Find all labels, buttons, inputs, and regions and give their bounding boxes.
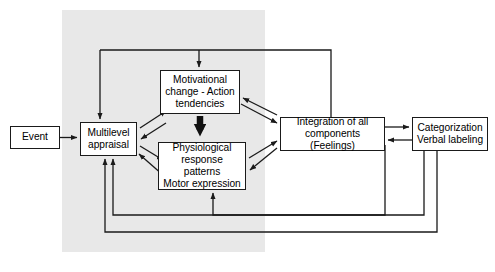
node-motivational-change-line1: Motivational [162,74,237,86]
node-integration-feelings-line1: Integration of all [281,116,384,128]
node-categorization-labeling[interactable]: Categorization Verbal labeling [412,117,488,151]
node-integration-feelings-line2: components (Feelings) [281,128,384,152]
node-categorization-labeling-line2: Verbal labeling [414,134,486,146]
node-multilevel-appraisal-line2: appraisal [85,139,133,151]
node-motivational-change[interactable]: Motivational change - Action tendencies [160,70,240,114]
node-event[interactable]: Event [10,126,60,149]
node-physiological-response[interactable]: Physiological response patterns Motor ex… [158,142,246,190]
node-motivational-change-line2: change - Action [162,86,237,98]
node-categorization-labeling-line1: Categorization [414,122,486,134]
node-physiological-response-line3: Motor expression [159,178,245,190]
node-physiological-response-line1: Physiological [159,142,245,154]
node-multilevel-appraisal[interactable]: Multilevel appraisal [80,122,137,156]
node-event-label: Event [19,131,51,143]
node-physiological-response-line2: response patterns [159,154,245,178]
node-multilevel-appraisal-line1: Multilevel [85,127,133,139]
node-motivational-change-line3: tendencies [162,98,237,110]
node-integration-feelings[interactable]: Integration of all components (Feelings) [280,117,385,151]
diagram-canvas: Event Multilevel appraisal Motivational … [0,0,495,272]
